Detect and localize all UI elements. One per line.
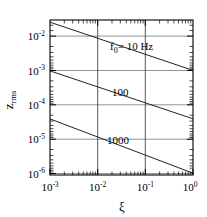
ytick-label-1e-5: 10-5 (28, 132, 45, 146)
x-axis-title: ξ (119, 199, 125, 214)
xtick-label-1e-2: 10-2 (89, 180, 106, 194)
y-axis-title: zrms (1, 91, 18, 110)
chart-canvas: 10-2 10-3 10-4 10-5 10-6 10-3 10-2 10-1 … (0, 0, 207, 217)
y-axis-tick-labels: 10-2 10-3 10-4 10-5 10-6 (28, 29, 45, 180)
xtick-label-1e-1: 10-1 (137, 180, 154, 194)
annotation-f0-100: 100 (112, 86, 129, 98)
x-axis-tick-labels: 10-3 10-2 10-1 100 (41, 180, 197, 194)
ytick-label-1e-6: 10-6 (28, 166, 45, 180)
ytick-label-1e-2: 10-2 (28, 29, 45, 43)
xtick-label-1e-3: 10-3 (41, 180, 58, 194)
svg-text:zrms: zrms (1, 91, 18, 110)
chart-figure: 10-2 10-3 10-4 10-5 10-6 10-3 10-2 10-1 … (0, 0, 207, 217)
annotation-f0-1000: 1000 (107, 134, 130, 146)
xtick-label-1e0: 100 (183, 180, 198, 194)
ytick-label-1e-3: 10-3 (28, 63, 45, 77)
ytick-label-1e-4: 10-4 (28, 97, 45, 111)
